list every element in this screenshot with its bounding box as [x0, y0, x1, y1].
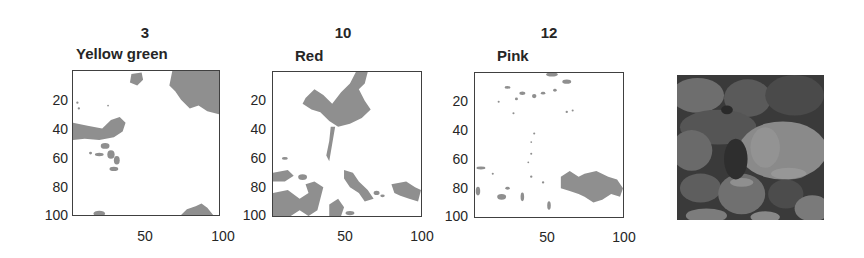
- panel-2-xtick-50: 50: [325, 228, 365, 244]
- panel-1-axes: [72, 70, 220, 216]
- panel-2-ytick-100: 100: [232, 207, 266, 223]
- panel-3-ytick-40: 40: [434, 122, 468, 138]
- panel-2-ytick-20: 20: [232, 92, 266, 108]
- panel-3-xtick-100: 100: [604, 229, 644, 245]
- panel-1-ytick-60: 60: [34, 150, 68, 166]
- grayscale-photo: [677, 75, 824, 220]
- panel-2-title: Red: [295, 47, 323, 64]
- panel-2-ytick-60: 60: [232, 150, 266, 166]
- panel-2-axes: [272, 71, 422, 217]
- panel-1-xtick-50: 50: [125, 228, 165, 244]
- panel-3-title: Pink: [497, 47, 529, 64]
- panel-1-ytick-40: 40: [34, 121, 68, 137]
- panel-2-cluster-number: 10: [313, 24, 373, 41]
- panel-1-ytick-20: 20: [34, 92, 68, 108]
- panel-3-axes: [474, 72, 624, 218]
- panel-2-ytick-40: 40: [232, 121, 266, 137]
- panel-3-ytick-100: 100: [434, 208, 468, 224]
- panel-3-ytick-80: 80: [434, 180, 468, 196]
- panel-3-ytick-60: 60: [434, 151, 468, 167]
- panel-1-ytick-100: 100: [34, 207, 68, 223]
- panel-3-xtick-50: 50: [527, 229, 567, 245]
- panel-1-ytick-80: 80: [34, 179, 68, 195]
- panel-1-mask: [73, 71, 219, 215]
- panel-2-xtick-100: 100: [402, 228, 442, 244]
- panel-1-xtick-100: 100: [203, 228, 243, 244]
- panel-1-cluster-number: 3: [115, 24, 175, 41]
- panel-1-title: Yellow green: [76, 45, 168, 62]
- panel-3-ytick-20: 20: [434, 93, 468, 109]
- panel-2-ytick-80: 80: [232, 179, 266, 195]
- panel-2-mask: [273, 72, 421, 216]
- peppers-image: [677, 75, 824, 220]
- panel-3-mask: [475, 73, 623, 217]
- panel-3-cluster-number: 12: [519, 24, 579, 41]
